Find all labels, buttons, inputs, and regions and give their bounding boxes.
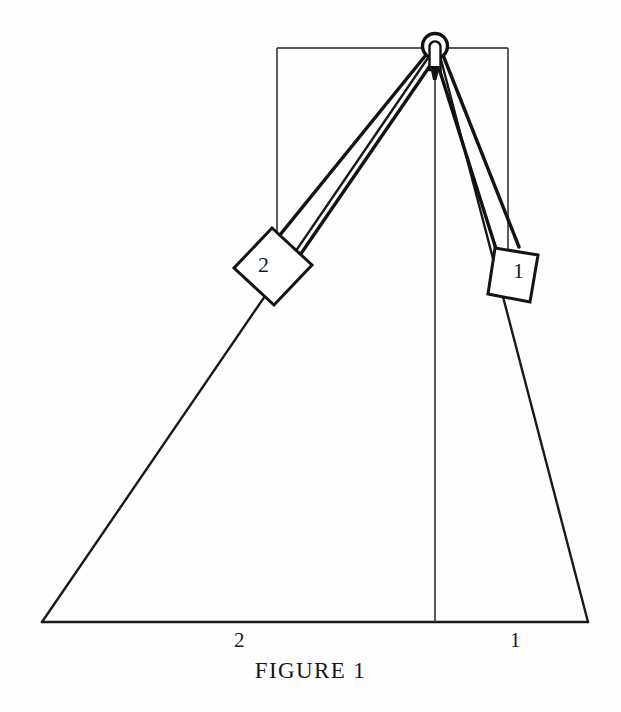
- figure-caption: FIGURE 1: [0, 658, 621, 684]
- rope-knot-wedge: [430, 66, 440, 80]
- block-1-label: 1: [513, 258, 524, 284]
- reference-rectangle-group: [277, 48, 508, 256]
- triangle-wedge-group: [42, 52, 588, 622]
- base-label-2: 2: [234, 628, 245, 653]
- wedge-left-face: [42, 52, 432, 622]
- block-2-group[interactable]: [234, 228, 312, 305]
- block-2-label: 2: [258, 252, 269, 278]
- rope-left-strand-outer: [258, 50, 430, 262]
- rope-right-strand-inner: [437, 62, 497, 252]
- block-2-body[interactable]: [234, 228, 312, 305]
- figure-1-diagram: [0, 0, 621, 712]
- base-label-1: 1: [510, 628, 521, 653]
- figure-canvas: 2 1 2 1 FIGURE 1: [0, 0, 621, 712]
- ring-hook-shank: [429, 41, 440, 70]
